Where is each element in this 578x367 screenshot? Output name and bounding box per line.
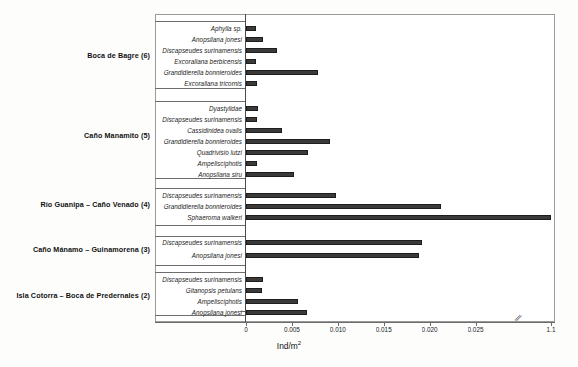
x-tick-label: 0.025 bbox=[468, 326, 484, 334]
group-rule bbox=[155, 265, 245, 266]
bar bbox=[246, 161, 257, 166]
group-label-isla-cotorra-boca-de-predernales: Isla Cotorra – Boca de Predernales (2) bbox=[0, 291, 150, 300]
x-axis-title-text: Ind/m bbox=[277, 341, 298, 351]
x-axis-title: Ind/m2 bbox=[0, 340, 578, 351]
group-rule bbox=[155, 178, 245, 179]
figure-canvas: Boca de Bagre (6) Caño Manamito (5) Río … bbox=[0, 0, 578, 367]
category-label: Dyastylidae bbox=[209, 105, 242, 112]
x-axis-title-exponent: 2 bbox=[298, 340, 301, 346]
x-axis-line bbox=[155, 322, 555, 323]
category-label: Anopsilana jonesi bbox=[192, 36, 242, 43]
bar bbox=[246, 204, 441, 209]
group-rule bbox=[155, 272, 245, 273]
category-label: Excorallana berbicensis bbox=[174, 58, 242, 65]
category-label: Anopsilana jonesi bbox=[192, 252, 242, 259]
x-axis-left-cap bbox=[240, 311, 245, 312]
bar bbox=[246, 240, 422, 245]
category-label: Anopsilana jonesi bbox=[192, 309, 242, 316]
category-label: Discapseudes surinamensis bbox=[162, 276, 242, 283]
bar bbox=[246, 139, 330, 144]
category-label: Ampelisciphotis bbox=[198, 298, 243, 305]
group-rule bbox=[155, 101, 245, 102]
category-label: Grandidierella bonnieroides bbox=[164, 203, 242, 210]
bar bbox=[246, 310, 307, 315]
x-tick-label: 0.020 bbox=[422, 326, 438, 334]
category-label: Aphylla sp. bbox=[211, 25, 242, 32]
category-label: Ampelisciphotis bbox=[198, 160, 243, 167]
bar bbox=[246, 37, 263, 42]
category-label: Anopsilana siru bbox=[198, 171, 242, 178]
bar bbox=[246, 253, 419, 258]
bar bbox=[246, 288, 262, 293]
bar bbox=[246, 128, 282, 133]
category-label: Discapseudes surinamensis bbox=[162, 47, 242, 54]
category-label: Grandidierella bonnieroides bbox=[164, 138, 242, 145]
bar bbox=[246, 150, 308, 155]
bar bbox=[246, 299, 298, 304]
x-tick-label: 0.010 bbox=[330, 326, 346, 334]
x-tick-label: 0 bbox=[244, 326, 248, 334]
group-rule bbox=[155, 21, 245, 22]
group-rule bbox=[155, 236, 245, 237]
category-label: Quadrivisio lutzi bbox=[197, 149, 242, 156]
x-tick-label: 0.015 bbox=[376, 326, 392, 334]
category-label: Sphaeroma walkeri bbox=[187, 214, 242, 221]
category-label: Grandidierella bonnieroides bbox=[164, 69, 242, 76]
bar bbox=[246, 70, 318, 75]
category-label: Cassidinidea ovalis bbox=[187, 127, 242, 134]
group-rule bbox=[155, 88, 245, 89]
bar bbox=[246, 193, 336, 198]
bar bbox=[246, 172, 294, 177]
bar bbox=[246, 215, 551, 220]
group-label-cano-manamo-guinamorena: Caño Mánamo – Guinamorena (3) bbox=[0, 245, 150, 254]
group-rule bbox=[155, 225, 245, 226]
bar bbox=[246, 26, 256, 31]
group-label-rio-guanipa-cano-venado: Río Guanipa – Caño Venado (4) bbox=[0, 200, 150, 209]
x-tick-label: 1.1 bbox=[547, 326, 556, 334]
bar bbox=[246, 106, 258, 111]
bar bbox=[246, 81, 257, 86]
category-label: Discapseudes surinamensis bbox=[162, 192, 242, 199]
category-label: Gitanopsis petulans bbox=[186, 287, 242, 294]
category-label: Discapseudes surinamensis bbox=[162, 116, 242, 123]
group-rule bbox=[155, 188, 245, 189]
bar bbox=[246, 59, 256, 64]
category-label: Excorallana tricornis bbox=[184, 80, 242, 87]
group-label-cano-manamito: Caño Manamito (5) bbox=[0, 131, 150, 140]
group-label-boca-de-bagre: Boca de Bagre (6) bbox=[0, 51, 150, 60]
bar bbox=[246, 48, 277, 53]
category-label: Discapseudes surinamensis bbox=[162, 239, 242, 246]
bar bbox=[246, 117, 257, 122]
x-tick-label: 0.005 bbox=[284, 326, 300, 334]
bar bbox=[246, 277, 263, 282]
